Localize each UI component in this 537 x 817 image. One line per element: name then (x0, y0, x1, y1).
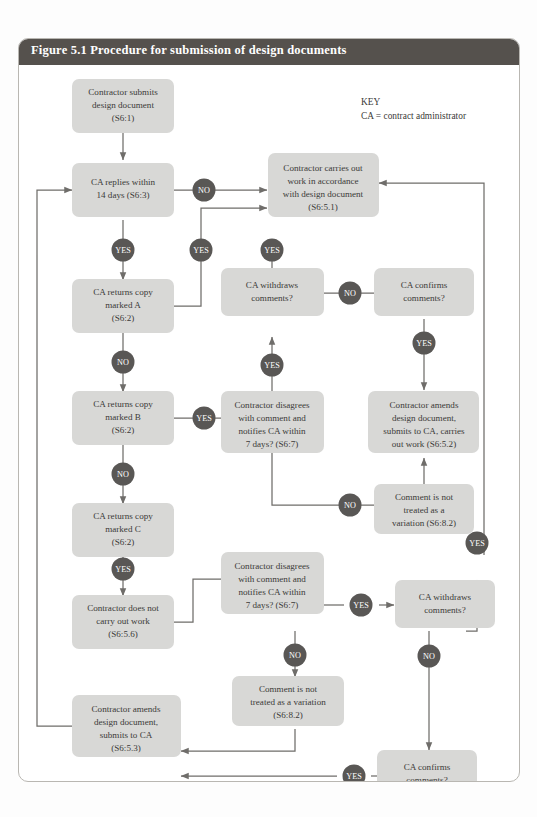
flowchart-svg: Contractor submits design document (S6:1… (19, 65, 519, 781)
node-n16[interactable]: Comment is not treated as a variation (S… (232, 676, 344, 726)
badge-label: NO (344, 289, 356, 298)
badge-b14: YES (466, 532, 489, 555)
figure-title-bar: Figure 5.1 Procedure for submission of d… (19, 39, 519, 65)
node-line: submits to CA (100, 730, 153, 740)
node-n17[interactable]: CA confirms comments? (377, 750, 477, 781)
node-line: marked B (105, 412, 141, 422)
node-line: Contractor amends (92, 704, 161, 714)
node-line: (S6:1) (112, 113, 135, 123)
badge-label: NO (344, 501, 356, 510)
page-root: Figure 5.1 Procedure for submission of d… (0, 0, 537, 817)
badge-label: NO (117, 358, 129, 367)
node-line: Contractor disagrees (235, 561, 310, 571)
node-line: CA returns copy (93, 511, 153, 521)
node-line: variation (S6:8.2) (392, 518, 456, 528)
node-line: 7 days? (S6:7) (246, 439, 299, 449)
node-n9[interactable]: CA withdraws comments? (221, 268, 324, 316)
node-line: CA returns copy (93, 399, 153, 409)
node-box[interactable] (395, 580, 495, 628)
badge-label: YES (196, 414, 212, 423)
node-n7[interactable]: Contractor amends design document, submi… (72, 695, 181, 757)
node-line: Contractor carries out (283, 163, 363, 173)
node-line: CA confirms (401, 280, 448, 290)
badge-b17: YES (343, 765, 366, 782)
key-block: KEY CA = contract administrator (361, 97, 467, 121)
node-n5[interactable]: CA returns copy marked C (S6:2) (72, 503, 174, 557)
badge-label: YES (353, 601, 369, 610)
node-n11[interactable]: Contractor disagrees with comment and no… (221, 391, 324, 453)
node-line: notifies CA within (238, 587, 306, 597)
badge-b13: YES (350, 594, 373, 617)
badge-b3: YES (190, 239, 213, 262)
node-line: (S6:5.3) (111, 743, 141, 753)
badge-b4: NO (112, 351, 135, 374)
node-n3[interactable]: CA returns copy marked A (S6:2) (72, 279, 174, 333)
node-line: Comment is not (259, 684, 318, 694)
node-line: (S6:2) (112, 537, 135, 547)
node-line: marked A (105, 300, 141, 310)
node-line: comments? (403, 293, 444, 303)
badge-b15: NO (284, 644, 307, 667)
node-line: with design document (283, 189, 364, 199)
node-n1[interactable]: Contractor submits design document (S6:1… (72, 79, 174, 133)
node-line: (S6:2) (112, 425, 135, 435)
node-line: carry out work (96, 616, 150, 626)
node-line: CA confirms (404, 762, 451, 772)
node-line: with comment and (238, 413, 306, 423)
node-line: marked C (105, 524, 141, 534)
node-line: comments? (424, 605, 465, 615)
badge-b7: YES (193, 407, 216, 430)
badge-label: NO (198, 186, 210, 195)
node-n14[interactable]: Contractor disagrees with comment and no… (221, 552, 324, 614)
badge-label: YES (469, 539, 485, 548)
node-n15[interactable]: CA withdraws comments? (395, 580, 495, 628)
node-line: with comment and (238, 574, 306, 584)
node-line: (S6:2) (112, 313, 135, 323)
node-box[interactable] (374, 268, 474, 316)
node-n12[interactable]: Contractor amends design document, submi… (368, 391, 479, 453)
node-line: Contractor amends (390, 400, 459, 410)
node-line: (S6:5.6) (108, 629, 138, 639)
node-n2[interactable]: CA replies within 14 days (S6:3) (72, 163, 174, 217)
node-line: comments? (406, 775, 447, 781)
badge-b9: NO (112, 463, 135, 486)
node-line: Contractor disagrees (235, 400, 310, 410)
node-line: treated as a (404, 505, 445, 515)
badge-b10: YES (413, 332, 436, 355)
node-n8[interactable]: Contractor carries out work in accordanc… (268, 153, 379, 217)
node-line: CA returns copy (93, 287, 153, 297)
node-box[interactable] (221, 268, 324, 316)
node-line: submits to CA, carries (383, 426, 465, 436)
badge-label: NO (117, 470, 129, 479)
badge-b1: NO (193, 179, 216, 202)
badge-b5: YES (261, 239, 284, 262)
badge-label: NO (423, 652, 435, 661)
badge-label: YES (416, 339, 432, 348)
node-line: work in accordance (287, 176, 358, 186)
node-line: notifies CA within (238, 426, 306, 436)
badge-b8: YES (261, 354, 284, 377)
node-line: CA withdraws (246, 280, 299, 290)
node-line: CA withdraws (419, 592, 472, 602)
badge-b16: NO (418, 645, 441, 668)
node-n4[interactable]: CA returns copy marked B (S6:2) (72, 391, 174, 445)
node-line: CA replies within (91, 177, 156, 187)
node-line: design document, (392, 413, 456, 423)
node-n10[interactable]: CA confirms comments? (374, 268, 474, 316)
node-n6[interactable]: Contractor does not carry out work (S6:5… (72, 595, 174, 649)
badge-label: YES (115, 565, 131, 574)
node-line: Contractor submits (88, 87, 158, 97)
node-n13[interactable]: Comment is not treated as a variation (S… (374, 484, 474, 534)
badge-b11: YES (112, 558, 135, 581)
badge-label: NO (289, 651, 301, 660)
badge-b2: YES (112, 239, 135, 262)
badge-label: YES (193, 246, 209, 255)
badge-b6: NO (339, 282, 362, 305)
flowchart-canvas: Contractor submits design document (S6:1… (19, 65, 519, 781)
connector-n16-n7 (181, 729, 295, 751)
figure-title: Figure 5.1 Procedure for submission of d… (31, 43, 347, 58)
node-line: Contractor does not (87, 603, 159, 613)
figure-card: Figure 5.1 Procedure for submission of d… (18, 38, 520, 782)
node-line: (S6:8.2) (273, 710, 303, 720)
node-line: Comment is not (395, 492, 454, 502)
